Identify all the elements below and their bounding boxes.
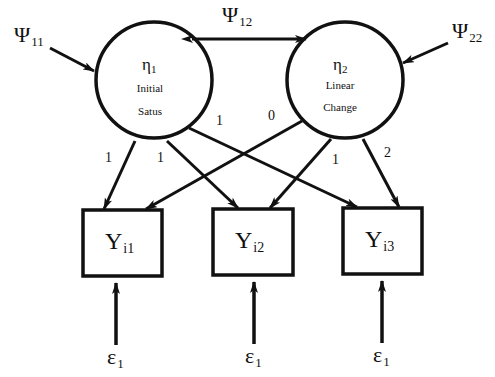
epsilon3-symbol: ε — [373, 342, 382, 367]
epsilon1-symbol: ε — [107, 344, 116, 369]
loading-eta1-y2 — [167, 141, 238, 208]
psi11-symbol: Ψ — [14, 22, 30, 47]
y3-subscript: i3 — [383, 239, 394, 254]
epsilon-y3-label: ε1 — [373, 342, 390, 370]
variance-arrow-psi22 — [403, 43, 448, 63]
loading-label-eta1-y2: 1 — [157, 150, 164, 166]
psi12-symbol: Ψ — [222, 2, 238, 27]
epsilon-y2-label: ε1 — [245, 343, 262, 371]
y3-symbol: Y — [365, 226, 382, 252]
eta1-label: η1 — [142, 55, 156, 75]
y2-label: Yi2 — [235, 227, 264, 256]
loading-label-eta2-y3: 2 — [384, 145, 391, 161]
variance-arrow-psi11 — [50, 48, 94, 71]
eta2-name-line2: Change — [300, 101, 380, 113]
y1-label: Yi1 — [105, 228, 134, 257]
eta1-subscript: 1 — [151, 63, 157, 75]
epsilon2-symbol: ε — [245, 343, 254, 368]
loading-label-eta2-y1: 0 — [268, 108, 275, 124]
y1-symbol: Y — [105, 228, 122, 254]
y2-subscript: i2 — [253, 240, 264, 255]
eta2-label: η2 — [333, 55, 347, 75]
epsilon3-subscript: 1 — [383, 354, 390, 369]
psi22-label: Ψ22 — [452, 18, 482, 46]
epsilon2-subscript: 1 — [255, 355, 262, 370]
eta1-symbol: η — [142, 55, 151, 74]
psi12-label: Ψ12 — [222, 2, 252, 30]
psi11-label: Ψ11 — [14, 22, 44, 50]
eta2-symbol: η — [333, 55, 342, 74]
eta2-subscript: 2 — [342, 63, 348, 75]
y2-symbol: Y — [235, 227, 252, 253]
eta2-name-line1: Linear — [300, 79, 380, 91]
loading-label-eta2-y2: 1 — [332, 152, 339, 168]
path-diagram — [0, 0, 495, 377]
psi22-symbol: Ψ — [452, 18, 468, 43]
y3-label: Yi3 — [365, 226, 394, 255]
loading-eta2-y3 — [363, 139, 399, 207]
loading-eta2-y2 — [270, 139, 331, 208]
psi22-subscript: 22 — [469, 30, 482, 45]
loading-label-eta1-y3: 1 — [216, 113, 223, 129]
psi11-subscript: 11 — [31, 34, 44, 49]
eta1-name-line2: Satus — [110, 105, 190, 117]
epsilon-y1-label: ε1 — [107, 344, 124, 372]
eta1-name-line1: Initial — [110, 82, 190, 94]
y1-subscript: i1 — [123, 241, 134, 256]
epsilon1-subscript: 1 — [117, 356, 124, 371]
loading-label-eta1-y1: 1 — [105, 150, 112, 166]
psi12-subscript: 12 — [239, 14, 252, 29]
